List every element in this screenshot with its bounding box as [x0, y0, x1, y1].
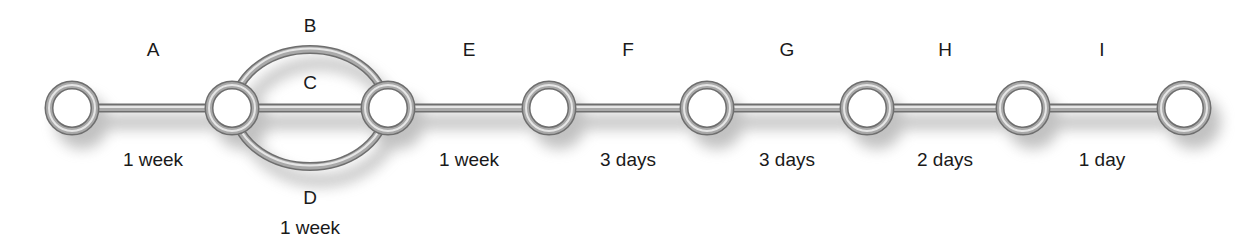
duration-label-f: 3 days	[600, 150, 656, 169]
duration-label-i: 1 day	[1079, 150, 1125, 169]
activity-label-h: H	[938, 40, 952, 59]
activity-label-a: A	[147, 40, 160, 59]
activity-label-d: D	[303, 188, 317, 207]
node-4	[526, 85, 572, 131]
node-1	[49, 85, 95, 131]
activity-label-i: I	[1099, 40, 1104, 59]
activity-label-b: B	[304, 16, 317, 35]
node-3	[365, 85, 411, 131]
node-2	[209, 85, 255, 131]
duration-label-a: 1 week	[123, 150, 183, 169]
node-6	[844, 85, 890, 131]
activity-label-g: G	[780, 40, 795, 59]
node-8	[1161, 85, 1207, 131]
activity-label-e: E	[463, 40, 476, 59]
duration-label-h: 2 days	[917, 150, 973, 169]
node-5	[684, 85, 730, 131]
duration-label-g: 3 days	[759, 150, 815, 169]
node-7	[1000, 85, 1046, 131]
activity-label-c: C	[303, 73, 317, 92]
activity-label-f: F	[622, 40, 634, 59]
network-diagram	[0, 0, 1258, 249]
duration-label-d: 1 week	[280, 218, 340, 237]
duration-label-e: 1 week	[439, 150, 499, 169]
